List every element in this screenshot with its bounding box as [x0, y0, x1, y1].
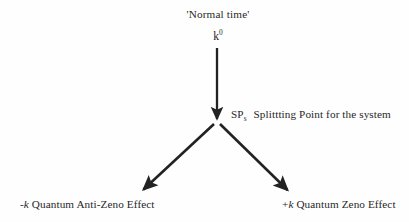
zeno-description: Quantum Zeno Effect [296, 198, 395, 210]
anti-zeno-symbol: k [24, 198, 29, 210]
source-superscript: 0 [219, 28, 223, 37]
diagram-canvas: 'Normal time' k0 SPs Splittting Point fo… [0, 0, 409, 222]
branch-arrow-left-anti-zeno [144, 124, 215, 190]
anti-zeno-description: Quantum Anti-Zeno Effect [32, 198, 155, 210]
splitting-point-abbrev: SP [231, 108, 244, 120]
zeno-symbol: k [288, 198, 293, 210]
splitting-point-subscript: s [244, 114, 247, 123]
splitting-point-description: Splittting Point for the system [254, 108, 391, 120]
normal-time-label: 'Normal time' [0, 8, 409, 20]
branch-arrow-right-zeno [220, 124, 288, 190]
zeno-effect-label: +k Quantum Zeno Effect [282, 198, 396, 210]
source-node-label: k0 [0, 30, 409, 43]
splitting-point-label: SPs Splittting Point for the system [231, 108, 391, 120]
anti-zeno-effect-label: -k Quantum Anti-Zeno Effect [20, 198, 155, 210]
